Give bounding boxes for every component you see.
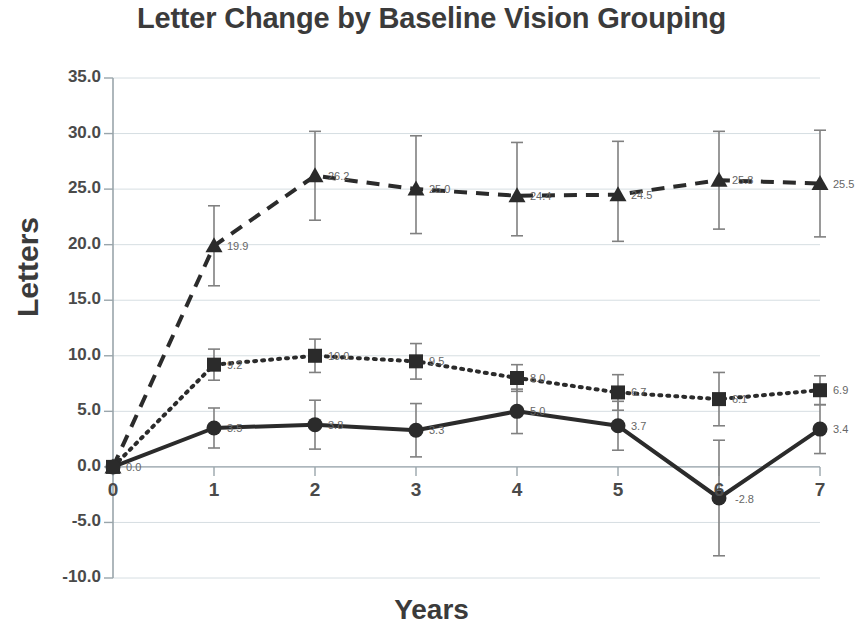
data-point-label: 9.2 bbox=[227, 359, 242, 371]
y-axis-tick-label: 15.0 bbox=[31, 289, 101, 309]
data-point-marker bbox=[611, 385, 625, 399]
data-point-label: 10.0 bbox=[328, 350, 349, 362]
y-axis-tick-label: -10.0 bbox=[31, 567, 101, 587]
data-point-label: 3.7 bbox=[631, 420, 646, 432]
data-point-marker bbox=[409, 354, 423, 368]
data-point-label: 5.0 bbox=[530, 405, 545, 417]
data-point-marker bbox=[409, 423, 424, 438]
x-axis-tick-label: 4 bbox=[502, 479, 532, 501]
data-point-marker bbox=[712, 392, 726, 406]
data-point-label: 9.5 bbox=[429, 355, 444, 367]
x-axis-tick-label: 1 bbox=[199, 479, 229, 501]
data-point-marker bbox=[611, 418, 626, 433]
y-axis-tick-label: 5.0 bbox=[31, 400, 101, 420]
data-point-label: 26.2 bbox=[328, 170, 349, 182]
y-axis-tick-label: 35.0 bbox=[31, 67, 101, 87]
x-axis-tick-label: 3 bbox=[401, 479, 431, 501]
x-axis-tick-label: 0 bbox=[98, 479, 128, 501]
data-point-marker bbox=[510, 371, 524, 385]
data-point-label: 6.1 bbox=[732, 393, 747, 405]
data-point-label: -2.8 bbox=[735, 493, 754, 505]
data-point-marker bbox=[813, 383, 827, 397]
data-point-label: 25.5 bbox=[833, 178, 854, 190]
data-point-marker bbox=[813, 422, 828, 437]
data-point-marker bbox=[307, 167, 324, 182]
chart-container: Letter Change by Baseline Vision Groupin… bbox=[0, 0, 863, 632]
data-point-marker bbox=[207, 421, 222, 436]
data-point-label: 24.5 bbox=[631, 189, 652, 201]
y-axis-tick-label: 30.0 bbox=[31, 123, 101, 143]
data-point-marker bbox=[106, 459, 121, 474]
y-axis-tick-label: 10.0 bbox=[31, 345, 101, 365]
y-axis-tick-label: -5.0 bbox=[31, 511, 101, 531]
x-axis-tick-label: 7 bbox=[805, 479, 835, 501]
data-point-label: 24.4 bbox=[530, 190, 551, 202]
data-point-label: 3.8 bbox=[328, 419, 343, 431]
data-point-label: 3.3 bbox=[429, 424, 444, 436]
data-point-marker bbox=[308, 417, 323, 432]
y-axis-tick-label: 0.0 bbox=[31, 456, 101, 476]
data-point-marker bbox=[510, 404, 525, 419]
data-point-label: 6.7 bbox=[631, 386, 646, 398]
data-point-label: 0.0 bbox=[126, 461, 141, 473]
data-point-label: 3.5 bbox=[227, 422, 242, 434]
data-point-label: 3.4 bbox=[833, 423, 848, 435]
data-point-label: 25.0 bbox=[429, 183, 450, 195]
x-axis-tick-label: 6 bbox=[704, 479, 734, 501]
data-point-marker bbox=[207, 358, 221, 372]
data-point-label: 8.0 bbox=[530, 372, 545, 384]
y-axis-tick-label: 20.0 bbox=[31, 234, 101, 254]
data-point-label: 6.9 bbox=[833, 384, 848, 396]
x-axis-tick-label: 2 bbox=[300, 479, 330, 501]
data-point-marker bbox=[308, 349, 322, 363]
data-point-label: 19.9 bbox=[227, 240, 248, 252]
x-axis-tick-label: 5 bbox=[603, 479, 633, 501]
data-point-label: 25.8 bbox=[732, 174, 753, 186]
plot-area bbox=[0, 0, 863, 632]
y-axis-tick-label: 25.0 bbox=[31, 178, 101, 198]
